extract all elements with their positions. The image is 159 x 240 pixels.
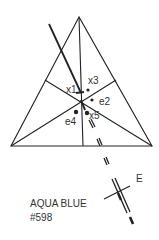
label-e4: e4: [65, 117, 76, 127]
label-e2: e2: [99, 97, 110, 107]
label-x3: x3: [88, 76, 99, 86]
median-vertical: [79, 17, 83, 146]
vector-line: [49, 24, 81, 93]
label-E: E: [136, 174, 143, 184]
color-name: AQUA BLUE: [30, 199, 87, 209]
crossbar: [104, 186, 130, 199]
color-code: #598: [30, 213, 52, 223]
point-e4: [74, 110, 78, 114]
label-x1: x1: [66, 85, 77, 95]
crossbar-mark: [118, 193, 121, 200]
label-x5: x5: [89, 111, 100, 121]
dashed-double-line: [89, 119, 130, 213]
point-x3: [86, 88, 89, 91]
end-marker: [130, 217, 133, 224]
median-right: [11, 80, 116, 146]
point-e2: [90, 98, 93, 101]
vector-tick: [76, 92, 84, 93]
